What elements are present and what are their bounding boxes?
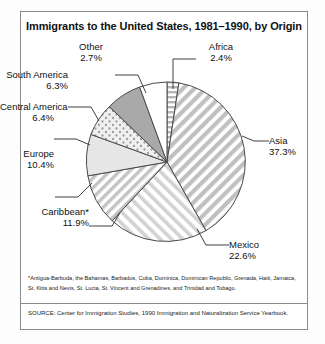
label-africa-name: Africa xyxy=(209,41,233,52)
label-europe-pct: 10.4% xyxy=(0,159,54,170)
label-south-america-name: South America xyxy=(6,69,68,80)
label-caribbean-name: Caribbean* xyxy=(41,206,89,217)
label-asia-name: Asia xyxy=(269,135,287,146)
label-asia: Asia 37.3% xyxy=(269,135,321,157)
label-africa-pct: 2.4% xyxy=(192,52,250,63)
label-mexico-name: Mexico xyxy=(229,239,259,250)
label-south-america: South America 6.3% xyxy=(0,69,68,91)
label-africa: Africa 2.4% xyxy=(192,41,250,63)
figure-root: Immigrants to the United States, 1981–19… xyxy=(0,0,325,344)
footnote-text: *Antigua-Barbuda, the Bahamas, Barbados,… xyxy=(28,274,302,293)
label-asia-pct: 37.3% xyxy=(269,146,321,157)
label-mexico: Mexico 22.6% xyxy=(229,239,293,261)
label-caribbean: Caribbean* 11.9% xyxy=(0,206,89,228)
label-caribbean-pct: 11.9% xyxy=(0,217,89,228)
label-central-america-pct: 6.4% xyxy=(0,112,54,123)
label-central-america-name: Central America xyxy=(0,101,68,112)
label-other-name: Other xyxy=(79,41,103,52)
label-central-america: Central America 6.4% xyxy=(0,101,54,123)
label-mexico-pct: 22.6% xyxy=(229,250,293,261)
source-text: SOURCE: Center for Immigration Studies, … xyxy=(28,310,302,316)
label-europe-name: Europe xyxy=(23,148,54,159)
source-divider xyxy=(21,303,307,304)
label-europe: Europe 10.4% xyxy=(0,148,54,170)
label-south-america-pct: 6.3% xyxy=(0,80,68,91)
label-other-pct: 2.7% xyxy=(68,52,114,63)
label-other: Other 2.7% xyxy=(68,41,114,63)
